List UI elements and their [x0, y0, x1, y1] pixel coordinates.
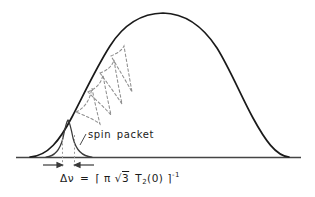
spin-packet-label: spin packet	[88, 129, 154, 140]
width-arrows-group	[43, 163, 94, 168]
formula-exponent: -1	[172, 171, 180, 179]
formula-t-argument: (0)	[147, 172, 163, 184]
dashed-packet-4	[111, 46, 132, 92]
formula-delta: Δ	[60, 172, 68, 184]
formula-nu: ν	[68, 172, 74, 184]
spin-packet-lineshape-figure: spin packet Δν=⌈π√3T2(0)⌉-1	[0, 0, 315, 197]
width-marker-lines-group	[63, 135, 75, 167]
figure-canvas	[0, 0, 315, 197]
formula-pi: π	[104, 172, 111, 184]
width-arrow-right-head	[75, 163, 81, 168]
spin-packet-peak-curve	[46, 120, 92, 157]
dashed-spin-packets-group	[76, 46, 132, 124]
dashed-packet-1	[76, 88, 100, 124]
formula-sqrt-argument: 3	[122, 172, 129, 184]
formula-bracket-open: ⌈	[95, 172, 100, 184]
width-arrow-left-head	[57, 163, 63, 168]
label-leader-line	[80, 134, 86, 145]
dashed-packet-2	[88, 75, 111, 115]
envelope-curve	[30, 13, 289, 157]
formula-sqrt-sign: √	[115, 172, 122, 184]
formula-equals: =	[80, 172, 89, 184]
dashed-packet-3	[100, 60, 122, 104]
delta-nu-formula: Δν=⌈π√3T2(0)⌉-1	[60, 171, 180, 186]
